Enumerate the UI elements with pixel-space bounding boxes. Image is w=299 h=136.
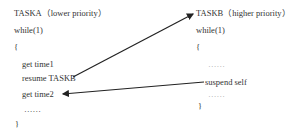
task-a-ellipsis: ……	[24, 104, 41, 114]
task-b-title: TASKB（higher priority）	[196, 8, 291, 18]
task-a-while: while(1)	[14, 25, 43, 35]
task-b-while: while(1)	[196, 25, 225, 35]
arrow-suspend-to-get-time2	[63, 82, 204, 94]
task-a-close-brace: }	[15, 119, 19, 129]
arrow-resume-to-taskb	[73, 14, 193, 77]
task-a-title: TASKA（lower priority）	[14, 8, 107, 18]
task-a-get-time1: get time1	[22, 59, 54, 69]
task-a-open-brace: {	[14, 42, 18, 52]
task-a-resume-taskb: resume TASKB	[22, 73, 76, 83]
task-b-ellipsis-1: ……	[208, 59, 225, 69]
task-a-get-time2: get time2	[22, 89, 54, 99]
task-b-suspend-self: suspend self	[205, 77, 247, 87]
task-b-close-brace: }	[198, 101, 202, 111]
task-b-open-brace: {	[196, 42, 200, 52]
task-b-ellipsis-2: ……	[208, 89, 225, 99]
